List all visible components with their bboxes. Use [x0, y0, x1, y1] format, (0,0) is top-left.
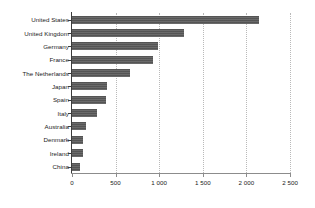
- bar: [72, 16, 259, 24]
- category-label: Denmark: [0, 136, 69, 143]
- gridline: [246, 13, 247, 173]
- x-axis-tick-label: 2 000: [239, 179, 255, 187]
- x-axis-tick-label: 1 500: [195, 179, 211, 187]
- bar: [72, 149, 83, 157]
- category-label: Japan: [0, 83, 69, 90]
- bar: [72, 163, 80, 171]
- y-axis-tick: [68, 73, 71, 74]
- y-axis-tick: [68, 20, 71, 21]
- x-axis-tick-label: 0: [70, 179, 74, 187]
- x-axis-tick-label: 500: [110, 179, 120, 187]
- y-axis-tick: [68, 126, 71, 127]
- x-axis-tick: [159, 174, 160, 177]
- bar: [72, 42, 158, 50]
- bar: [72, 69, 130, 77]
- category-label: United States: [0, 16, 69, 23]
- x-axis-tick-label: 1 000: [151, 179, 167, 187]
- x-axis-tick-label: 2 500: [282, 179, 298, 187]
- category-label: China: [0, 163, 69, 170]
- x-axis-tick: [116, 174, 117, 177]
- category-label: Spain: [0, 96, 69, 103]
- y-axis-tick: [68, 100, 71, 101]
- y-axis-line: [71, 12, 72, 174]
- bar: [72, 136, 83, 144]
- bar: [72, 29, 184, 37]
- category-axis-labels: United StatesUnited KingdomGermanyFrance…: [0, 13, 69, 173]
- bar: [72, 82, 107, 90]
- bar: [72, 122, 86, 130]
- x-axis-tick: [290, 174, 291, 177]
- category-label: Italy: [0, 110, 69, 117]
- y-axis-tick: [68, 33, 71, 34]
- x-axis-tick: [246, 174, 247, 177]
- plot-area: [72, 13, 290, 173]
- x-axis-tick: [203, 174, 204, 177]
- bar: [72, 56, 153, 64]
- category-label: The Netherlands: [0, 70, 69, 77]
- y-axis-tick: [68, 167, 71, 168]
- y-axis-tick: [68, 153, 71, 154]
- bar: [72, 109, 97, 117]
- gridline: [203, 13, 204, 173]
- bar: [72, 96, 106, 104]
- gridline: [290, 13, 291, 173]
- horizontal-bar-chart: United StatesUnited KingdomGermanyFrance…: [0, 0, 315, 208]
- category-label: France: [0, 56, 69, 63]
- category-label: Germany: [0, 43, 69, 50]
- x-axis-tick: [72, 174, 73, 177]
- category-label: Ireland: [0, 150, 69, 157]
- category-label: United Kingdom: [0, 30, 69, 37]
- y-axis-tick: [68, 46, 71, 47]
- y-axis-tick: [68, 140, 71, 141]
- y-axis-tick: [68, 113, 71, 114]
- y-axis-tick: [68, 60, 71, 61]
- category-label: Australia: [0, 123, 69, 130]
- x-axis-line: [71, 173, 291, 174]
- y-axis-tick: [68, 86, 71, 87]
